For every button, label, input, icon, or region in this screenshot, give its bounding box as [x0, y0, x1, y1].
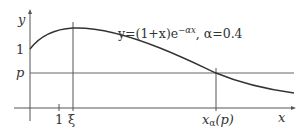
- formula-exponent: −αx: [178, 25, 196, 35]
- x-axis-arrow-icon: [291, 106, 296, 110]
- formula-main: y=(1+x)e: [117, 26, 178, 41]
- y-axis-label: y: [17, 12, 26, 27]
- y-axis-arrow-icon: [28, 9, 32, 14]
- x-alpha-p-label: xα(p): [202, 112, 234, 128]
- formula-param: , α=0.4: [196, 26, 243, 41]
- function-plot: y 1 p 1 ξ xα(p) x y=(1+x)e−αx, α=0.4: [0, 0, 305, 131]
- y-tick-one-label: 1: [16, 42, 24, 57]
- x-axis-label: x: [278, 110, 286, 125]
- x-tick-xi-label: ξ: [68, 112, 75, 127]
- x-alpha-arg: (p): [215, 112, 233, 127]
- y-tick-p-label: p: [16, 65, 25, 80]
- x-tick-one-label: 1: [55, 112, 63, 127]
- formula-label: y=(1+x)e−αx, α=0.4: [117, 25, 243, 41]
